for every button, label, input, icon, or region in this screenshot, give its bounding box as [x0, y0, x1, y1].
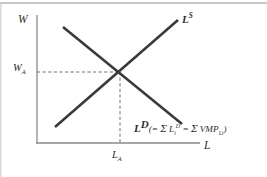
demand-label-close-paren: ): [223, 124, 226, 134]
x-axis-label: L: [204, 140, 210, 152]
demand-label-term2: VMP: [200, 124, 219, 134]
demand-label-term1-superscript: D: [176, 123, 180, 129]
demand-label-equals: =: [182, 124, 188, 134]
supply-label-superscript: S: [189, 12, 193, 20]
la-tick-label: LA: [112, 150, 122, 161]
supply-curve-label: LS: [182, 14, 193, 25]
demand-label-sigma-1: Σ: [160, 123, 167, 134]
demand-label-superscript: D: [141, 118, 149, 130]
labor-market-diagram: W WA LA L LS LD(= Σ LiD = Σ VMPLi): [0, 0, 267, 177]
wa-tick-label: WA: [13, 63, 26, 74]
y-axis-label-text: W: [18, 13, 28, 25]
la-tick-subscript: A: [118, 155, 122, 162]
wa-tick-base: W: [13, 62, 22, 73]
demand-label-base: L: [134, 122, 141, 134]
diagram-canvas: [0, 0, 267, 177]
demand-label-sigma-2: Σ: [191, 123, 198, 134]
x-axis-label-text: L: [204, 139, 210, 151]
supply-label-base: L: [182, 13, 189, 25]
demand-curve-label: LD(= Σ LiD = Σ VMPLi): [134, 123, 226, 134]
wa-tick-subscript: A: [22, 68, 26, 75]
demand-curve: [63, 27, 182, 124]
y-axis-label: W: [18, 14, 28, 26]
demand-label-open-paren: (=: [149, 124, 158, 134]
demand-label-term1-subscript: i: [174, 130, 176, 136]
